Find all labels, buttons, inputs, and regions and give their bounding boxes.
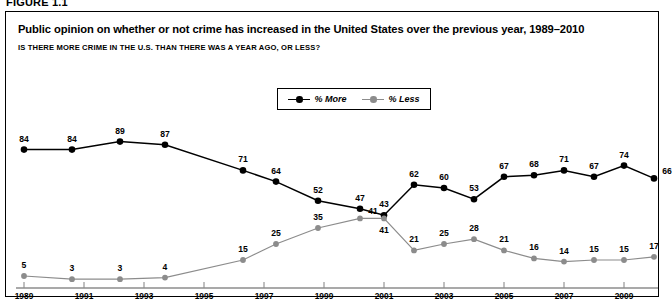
data-point: [471, 236, 477, 242]
chart-subtitle: IS THERE MORE CRIME IN THE U.S. THAN THE…: [18, 43, 320, 52]
figure-number-label: FIGURE 1.1: [6, 0, 68, 6]
x-tick-label: 1993: [135, 291, 154, 301]
chart-title: Public opinion on whether or not crime h…: [18, 23, 584, 35]
data-point: [501, 174, 508, 181]
value-label-less: 28: [469, 223, 479, 233]
figure-panel: Public opinion on whether or not crime h…: [5, 11, 659, 297]
data-point: [561, 259, 567, 265]
value-label-less: 25: [439, 228, 449, 238]
legend-item-less[interactable]: % Less: [362, 94, 419, 104]
data-point: [273, 178, 280, 185]
data-point: [411, 182, 418, 189]
data-point: [117, 138, 124, 145]
x-tick-label: 2007: [555, 291, 574, 301]
data-point: [591, 174, 598, 181]
x-tick-label: 2001: [375, 291, 394, 301]
x-tick-label: 1989: [15, 291, 34, 301]
data-point: [315, 225, 321, 231]
legend-marker-more-icon: [288, 95, 310, 104]
value-label-more: 84: [19, 134, 29, 144]
data-point: [381, 216, 387, 222]
data-point: [240, 167, 247, 174]
value-label-more: 87: [160, 129, 170, 139]
x-tick-label: 2003: [435, 291, 454, 301]
value-label-less: 25: [271, 228, 281, 238]
data-point: [21, 146, 28, 153]
x-tick-label: 1991: [75, 291, 94, 301]
value-label-less: 15: [589, 244, 599, 254]
value-label-less: 21: [499, 234, 509, 244]
value-label-less: 3: [70, 263, 75, 273]
data-point: [240, 257, 246, 263]
x-tick-label: 1997: [255, 291, 274, 301]
value-label-less: 35: [313, 212, 323, 222]
value-label-less: 5: [22, 260, 27, 270]
value-label-more: 60: [439, 172, 449, 182]
data-point: [69, 276, 75, 282]
data-point: [315, 198, 322, 205]
value-label-more: 43: [379, 199, 389, 209]
data-point: [273, 241, 279, 247]
value-label-more: 71: [559, 154, 569, 164]
value-label-more: 62: [409, 169, 419, 179]
data-point: [621, 162, 628, 169]
value-label-less: 4: [163, 262, 168, 272]
data-point: [591, 257, 597, 263]
value-label-less: 15: [619, 244, 629, 254]
value-label-less: 21: [409, 234, 419, 244]
data-point: [357, 216, 363, 222]
data-point: [357, 206, 364, 213]
x-tick-label: 1995: [195, 291, 214, 301]
value-label-more: 68: [529, 159, 539, 169]
data-point: [651, 175, 658, 182]
value-label-more: 89: [115, 126, 125, 136]
data-point: [531, 256, 537, 262]
data-point: [69, 146, 76, 153]
data-point: [651, 254, 657, 260]
value-label-less: 17: [649, 241, 659, 251]
value-label-less: 3: [118, 263, 123, 273]
data-point: [162, 275, 168, 281]
data-point: [501, 248, 507, 254]
data-point: [471, 196, 478, 203]
data-point: [162, 142, 169, 149]
value-label-more: 66: [662, 166, 672, 176]
value-label-more: 52: [313, 185, 323, 195]
value-label-less: 14: [559, 246, 569, 256]
value-label-less: 41: [368, 206, 378, 216]
value-label-more: 67: [589, 161, 599, 171]
data-point: [441, 241, 447, 247]
data-point: [621, 257, 627, 263]
data-point: [411, 248, 417, 254]
value-label-more: 67: [499, 161, 509, 171]
value-label-less: 16: [529, 242, 539, 252]
data-point: [117, 276, 123, 282]
legend-item-more[interactable]: % More: [288, 94, 346, 104]
chart-legend: % More % Less: [277, 88, 431, 110]
x-tick-label: 1999: [315, 291, 334, 301]
data-point: [21, 273, 27, 279]
x-tick-label: 2009: [615, 291, 634, 301]
value-label-more: 47: [355, 193, 365, 203]
legend-label-less: % Less: [388, 94, 419, 104]
value-label-less: 15: [238, 244, 248, 254]
value-label-more: 64: [271, 166, 281, 176]
value-label-more: 53: [469, 183, 479, 193]
legend-label-more: % More: [314, 94, 346, 104]
value-label-less: 41: [379, 225, 389, 235]
data-point: [441, 185, 448, 192]
data-point: [381, 212, 388, 219]
data-point: [531, 172, 538, 179]
data-point: [561, 167, 568, 174]
value-label-more: 71: [238, 154, 248, 164]
value-label-more: 74: [619, 150, 629, 160]
value-label-more: 84: [67, 134, 77, 144]
x-tick-label: 2005: [495, 291, 514, 301]
legend-marker-less-icon: [362, 95, 384, 104]
